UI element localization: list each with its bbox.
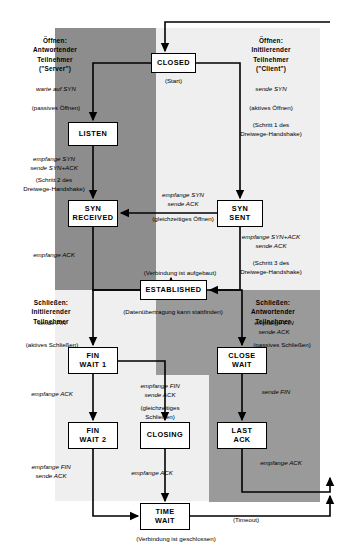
label-sende-syn: sende SYN bbox=[222, 84, 320, 93]
label-aktives-schliessen: (aktives Schließen) bbox=[6, 340, 98, 349]
state-fin-wait-2[interactable]: FIN WAIT 2 bbox=[68, 422, 118, 449]
label-sende-fin-responder: sende FIN bbox=[230, 387, 322, 396]
label-aktives-oeffnen: (aktives Öffnen) bbox=[222, 103, 320, 112]
tcp-state-diagram: CLOSED LISTEN SYN RECEIVED SYN SENT ESTA… bbox=[0, 0, 350, 559]
label-empfange-ack-left: empfange ACK bbox=[6, 250, 102, 259]
label-schritt-1: (Schritt 1 des Dreiwege-Handshake) bbox=[222, 120, 320, 139]
state-last-ack[interactable]: LAST ACK bbox=[217, 422, 267, 449]
label-timeout: (Timeout) bbox=[216, 515, 276, 524]
state-close-wait[interactable]: CLOSE WAIT bbox=[217, 347, 267, 374]
state-time-wait[interactable]: TIME WAIT bbox=[140, 503, 190, 530]
label-verbindung-geschlossen: (Verbindung ist geschlossen) bbox=[110, 534, 242, 543]
label-empfange-ack-2: empfange ACK bbox=[6, 389, 98, 398]
label-start: (Start) bbox=[151, 76, 196, 85]
label-sende-fin: sende FIN bbox=[6, 318, 98, 327]
label-empfange-ack-3: empfange ACK bbox=[112, 468, 192, 477]
state-closed[interactable]: CLOSED bbox=[151, 53, 196, 73]
label-passives-schliessen: (passives Schließen) bbox=[240, 340, 324, 349]
state-syn-received[interactable]: SYN RECEIVED bbox=[68, 200, 118, 227]
label-empfange-fin-sende-ack-2: empfange FIN sende ACK bbox=[4, 462, 98, 481]
state-listen[interactable]: LISTEN bbox=[68, 122, 118, 146]
label-empfange-fin-sende-ack: empfange FIN sende ACK bbox=[116, 381, 204, 400]
label-datenuebertragung: (Datenübertragung kann stattfinden) bbox=[98, 307, 248, 316]
label-passives-oeffnen: (passives Öffnen) bbox=[8, 103, 104, 112]
state-established[interactable]: ESTABLISHED bbox=[140, 280, 207, 300]
label-warte-auf-syn: warte auf SYN bbox=[8, 84, 104, 93]
region-label-open-client: Öffnen: Initiierender Teilnehmer ("Clien… bbox=[222, 36, 320, 73]
label-gleichzeitiges-oeffnen: (gleichzeitiges Öffnen) bbox=[128, 214, 238, 223]
label-empfange-fin-sende-ack-responder: empfange FIN sende ACK bbox=[228, 318, 320, 337]
label-schritt-2: (Schritt 2 des Dreiwege-Handshake) bbox=[4, 175, 104, 194]
label-verbindung-aufgebaut: (Verbindung ist aufgebaut) bbox=[120, 268, 240, 277]
state-fin-wait-1[interactable]: FIN WAIT 1 bbox=[68, 347, 118, 374]
label-empfange-syn-sende-synack: empfange SYN sende SYN+ACK bbox=[6, 154, 102, 173]
label-empfange-syn-sende-ack: empfange SYN sende ACK bbox=[128, 190, 238, 209]
region-label-open-server: Öffnen: Antwortender Teilnehmer ("Server… bbox=[6, 36, 104, 73]
state-closing[interactable]: CLOSING bbox=[140, 422, 190, 449]
label-empfange-synack-sende-ack: empfange SYN+ACK sende ACK bbox=[222, 232, 320, 251]
label-empfange-ack-responder: empfange ACK bbox=[236, 458, 326, 467]
label-gleichzeitiges-schliessen: (gleichzeitiges Schließen) bbox=[116, 403, 204, 422]
